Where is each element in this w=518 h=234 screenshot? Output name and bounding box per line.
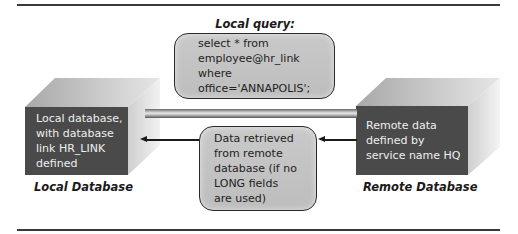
query-line: employee@hr_link: [198, 51, 334, 66]
top-rule: [17, 4, 500, 6]
arrowhead-icon: [318, 136, 325, 142]
query-line: office='ANNAPOLIS';: [198, 81, 334, 96]
front-line: Remote data: [366, 118, 461, 133]
front-line: Local database,: [36, 111, 123, 126]
data-retrieved-bubble: Data retrieved from remote database (if …: [199, 126, 317, 211]
remote-db-description: Remote data defined by service name HQ: [366, 118, 461, 163]
arrow-to-local-database: [146, 139, 199, 141]
database-link-bar: [145, 109, 357, 118]
remote-database-label: Remote Database: [363, 180, 477, 194]
result-line: Data retrieved: [214, 131, 316, 146]
front-line: service name HQ: [366, 148, 461, 163]
result-line: are used): [214, 191, 316, 206]
front-line: defined by: [366, 133, 461, 148]
local-db-description: Local database, with database link HR_LI…: [36, 111, 123, 171]
front-line: link HR_LINK: [36, 141, 123, 156]
front-line: with database: [36, 126, 123, 141]
front-line: defined: [36, 156, 123, 171]
arrow-from-remote-database: [324, 139, 357, 141]
remote-database-cube: Remote data defined by service name HQ: [340, 75, 518, 180]
result-line: LONG fields: [214, 176, 316, 191]
result-line: database (if no: [214, 161, 316, 176]
bottom-rule: [17, 229, 500, 231]
result-line: from remote: [214, 146, 316, 161]
local-database-label: Local Database: [34, 180, 133, 194]
arrowhead-icon: [140, 136, 147, 142]
local-query-bubble: select * from employee@hr_link where off…: [174, 33, 335, 99]
query-line: where: [198, 66, 334, 81]
local-database-cube: Local database, with database link HR_LI…: [0, 75, 170, 180]
query-line: select * from: [198, 36, 334, 51]
local-query-caption: Local query:: [165, 17, 345, 31]
